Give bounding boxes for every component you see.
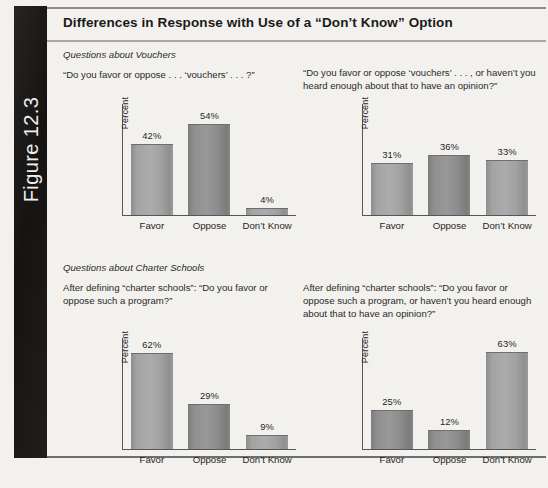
plot-area-bottom-right: Percent 25% 12% 63% — [362, 338, 536, 450]
category-label-favor: Favor — [363, 454, 420, 465]
question-text-top-left: “Do you favor or oppose . . . ‘vouchers’… — [63, 68, 293, 81]
chart-bottom-right: Percent 25% 12% 63% Favor Oppose Don’t K… — [318, 338, 540, 472]
category-label-oppose: Oppose — [421, 220, 478, 231]
category-label-dont-know: Don’t Know — [479, 220, 536, 231]
x-axis-line — [362, 449, 536, 450]
bar-group-bottom-right: 25% 12% 63% — [363, 338, 536, 449]
bar-slot: 62% — [123, 338, 180, 449]
bar-favor — [371, 410, 413, 449]
x-axis-line — [122, 215, 296, 216]
bar-value-label: 63% — [498, 338, 517, 349]
bar-slot: 4% — [239, 104, 296, 215]
bar-dont-know — [486, 160, 528, 216]
bar-group-top-left: 42% 54% 4% — [123, 104, 296, 215]
bar-slot: 36% — [421, 104, 478, 215]
figure-spine: Figure 12.3 — [14, 6, 47, 458]
bar-favor — [131, 353, 173, 449]
category-label-oppose: Oppose — [181, 454, 238, 465]
bar-value-label: 33% — [498, 146, 517, 157]
bar-group-top-right: 31% 36% 33% — [363, 104, 536, 215]
bar-slot: 9% — [239, 338, 296, 449]
category-label-favor: Favor — [123, 454, 180, 465]
x-axis-categories-bottom-right: Favor Oppose Don’t Know — [363, 454, 536, 465]
bar-value-label: 29% — [200, 390, 219, 401]
bar-value-label: 12% — [440, 416, 459, 427]
category-label-dont-know: Don’t Know — [479, 454, 536, 465]
figure-page: Figure 12.3 Differences in Response with… — [0, 0, 548, 488]
plot-area-bottom-left: Percent 62% 29% 9% — [122, 338, 296, 450]
bar-value-label: 42% — [142, 130, 161, 141]
bar-slot: 29% — [181, 338, 238, 449]
x-axis-categories-bottom-left: Favor Oppose Don’t Know — [123, 454, 296, 465]
category-label-oppose: Oppose — [181, 220, 238, 231]
bar-value-label: 4% — [260, 194, 274, 205]
x-axis-line — [122, 449, 296, 450]
figure-title: Differences in Response with Use of a “D… — [63, 15, 453, 30]
x-axis-categories-top-left: Favor Oppose Don’t Know — [123, 220, 296, 231]
chart-top-left: Percent 42% 54% 4% Favor Oppose Don’t Kn… — [78, 104, 300, 238]
bar-group-bottom-left: 62% 29% 9% — [123, 338, 296, 449]
question-text-top-right: “Do you favor or oppose ‘vouchers’ . . .… — [303, 66, 541, 92]
section-heading-charter-schools: Questions about Charter Schools — [63, 262, 204, 273]
plot-area-top-right: Percent 31% 36% 33% — [362, 104, 536, 216]
bar-oppose — [188, 404, 230, 449]
section-heading-vouchers: Questions about Vouchers — [63, 49, 176, 60]
bar-favor — [131, 144, 173, 215]
bar-dont-know — [246, 208, 288, 215]
bar-slot: 31% — [363, 104, 420, 215]
category-label-favor: Favor — [363, 220, 420, 231]
x-axis-categories-top-right: Favor Oppose Don’t Know — [363, 220, 536, 231]
bar-dont-know — [486, 352, 528, 449]
chart-bottom-left: Percent 62% 29% 9% Favor Oppose Don’t Kn… — [78, 338, 300, 472]
top-rule — [47, 7, 546, 9]
bar-slot: 42% — [123, 104, 180, 215]
category-label-dont-know: Don’t Know — [239, 454, 296, 465]
bar-value-label: 62% — [142, 339, 161, 350]
bar-slot: 63% — [479, 338, 536, 449]
bar-value-label: 9% — [260, 421, 274, 432]
bar-value-label: 25% — [382, 396, 401, 407]
bar-value-label: 54% — [200, 110, 219, 121]
x-axis-line — [362, 215, 536, 216]
bar-value-label: 31% — [382, 149, 401, 160]
category-label-oppose: Oppose — [421, 454, 478, 465]
category-label-dont-know: Don’t Know — [239, 220, 296, 231]
bar-slot: 54% — [181, 104, 238, 215]
question-text-bottom-left: After defining “charter schools”: “Do yo… — [63, 281, 285, 307]
bar-oppose — [428, 155, 470, 215]
bar-slot: 25% — [363, 338, 420, 449]
bar-dont-know — [246, 435, 288, 449]
bar-favor — [371, 163, 413, 215]
bar-slot: 12% — [421, 338, 478, 449]
category-label-favor: Favor — [123, 220, 180, 231]
chart-top-right: Percent 31% 36% 33% Favor Oppose Don’t K… — [318, 104, 540, 238]
bar-oppose — [188, 124, 230, 215]
bar-slot: 33% — [479, 104, 536, 215]
title-rule — [47, 40, 546, 42]
question-text-bottom-right: After defining “charter schools”: “Do yo… — [303, 281, 541, 321]
plot-area-top-left: Percent 42% 54% 4% — [122, 104, 296, 216]
bar-value-label: 36% — [440, 141, 459, 152]
figure-number-label: Figure 12.3 — [19, 97, 42, 203]
bar-oppose — [428, 430, 470, 449]
